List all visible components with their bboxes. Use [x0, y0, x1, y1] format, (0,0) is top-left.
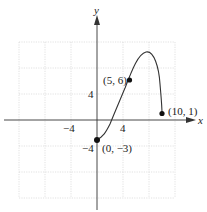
y-axis-arrow-icon [94, 15, 100, 25]
x-axis-label: x [197, 114, 203, 126]
point-end-label: (10, 1) [168, 105, 198, 118]
function-curve [97, 52, 162, 140]
y-axis-label: y [93, 4, 99, 16]
x-tick-neg4: −4 [63, 122, 75, 134]
x-axis-arrow-icon [186, 117, 196, 123]
x-tick-pos4: 4 [120, 122, 126, 134]
point-origin-label: (0, −3) [102, 142, 132, 155]
point-origin-marker [94, 137, 100, 143]
y-tick-pos4: 4 [88, 88, 94, 100]
point-mid-marker [127, 77, 132, 82]
function-graph: x y −4 4 4 −4 (0, −3) (5, 6) (10, 1) [0, 0, 207, 212]
point-end-marker [159, 111, 164, 116]
point-mid-label: (5, 6) [103, 74, 127, 87]
y-tick-neg4: −4 [82, 142, 94, 154]
